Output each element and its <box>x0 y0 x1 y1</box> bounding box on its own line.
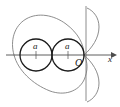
figure-canvas: a a O x <box>0 0 120 107</box>
label-radius-right: a <box>65 41 70 51</box>
label-origin: O <box>75 57 82 68</box>
math-figure: a a O x <box>0 0 120 107</box>
label-radius-left: a <box>33 41 38 51</box>
label-x-axis: x <box>107 54 112 64</box>
cardioid-curve <box>13 15 88 93</box>
